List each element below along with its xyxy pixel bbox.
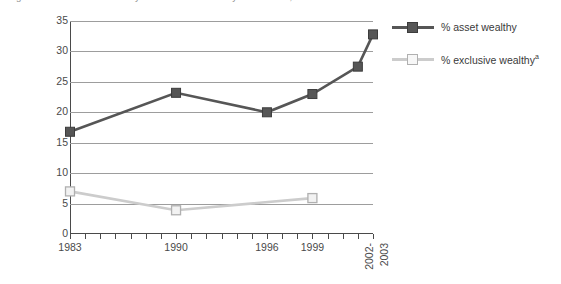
x-axis-tick [312, 234, 313, 239]
x-axis-tick [146, 234, 147, 239]
x-axis-tick-label: 1990 [164, 241, 187, 253]
y-axis-tick-label: 15 [8, 136, 68, 148]
data-point-marker [66, 187, 75, 196]
x-axis-tick [85, 234, 86, 239]
x-axis-tick [115, 234, 116, 239]
x-axis-tick [267, 234, 268, 239]
x-axis-tick [70, 234, 71, 239]
data-point-marker [262, 108, 271, 117]
x-axis-tick [358, 234, 359, 239]
x-axis-tick-label: 1999 [301, 241, 324, 253]
x-axis-tick [222, 234, 223, 239]
series-line [70, 191, 312, 210]
filled-square-icon [407, 22, 418, 33]
x-axis-tick [176, 234, 177, 239]
legend-swatch [392, 20, 434, 34]
x-axis-tick [131, 234, 132, 239]
y-axis-tick-label: 0 [8, 227, 68, 239]
legend-item[interactable]: % asset wealthy [392, 18, 557, 36]
legend-label: % asset wealthy [441, 21, 517, 33]
data-point-marker [308, 90, 317, 99]
legend-swatch [392, 52, 434, 66]
y-axis-tick-label: 25 [8, 75, 68, 87]
x-axis-tick [343, 234, 344, 239]
figure-container: Figure Trends in asset wealthy and exclu… [0, 0, 561, 284]
legend-label: % exclusive wealthya [441, 53, 539, 66]
legend-footnote-marker: a [535, 53, 539, 60]
x-axis-tick [328, 234, 329, 239]
open-square-icon [407, 54, 418, 65]
data-point-marker [66, 127, 75, 136]
figure-caption: Figure Trends in asset wealthy and exclu… [8, 0, 438, 3]
y-axis-tick-label: 5 [8, 197, 68, 209]
data-point-marker [172, 206, 181, 215]
x-axis-tick [297, 234, 298, 239]
chart-legend: % asset wealthy% exclusive wealthya [392, 18, 557, 82]
x-axis-tick-label: 2003 [378, 243, 390, 266]
x-axis-tick [282, 234, 283, 239]
data-point-marker [353, 62, 362, 71]
data-point-marker [308, 194, 317, 203]
x-axis-tick [161, 234, 162, 239]
x-axis-tick [237, 234, 238, 239]
y-axis-tick-label: 20 [8, 105, 68, 117]
series-line [70, 34, 373, 131]
data-point-marker [172, 88, 181, 97]
x-axis-tick-label: 2002- [363, 243, 375, 270]
x-axis-tick [100, 234, 101, 239]
y-axis-tick-label: 35 [8, 14, 68, 26]
legend-item[interactable]: % exclusive wealthya [392, 50, 557, 68]
plot-area: 05101520253035 19831990199619992002-2003 [70, 21, 373, 234]
x-axis-tick [191, 234, 192, 239]
x-axis-tick [252, 234, 253, 239]
x-axis-tick-label: 1983 [58, 241, 81, 253]
y-axis-tick-label: 30 [8, 44, 68, 56]
x-axis-tick-label: 1996 [255, 241, 278, 253]
x-axis-tick [373, 234, 374, 239]
x-axis-tick [206, 234, 207, 239]
data-point-marker [369, 30, 378, 39]
series-layer [70, 21, 373, 234]
y-axis-tick-label: 10 [8, 166, 68, 178]
